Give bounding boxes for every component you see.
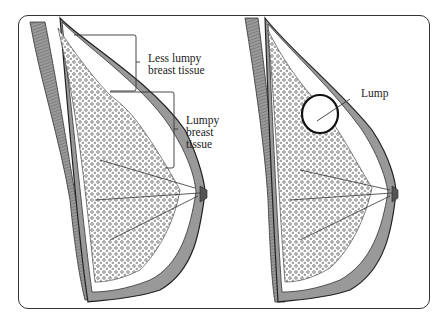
label-less-lumpy-line2: breast tissue	[148, 64, 205, 76]
right-breast-diagram	[245, 18, 398, 302]
label-less-lumpy: Less lumpy breast tissue	[148, 52, 205, 76]
breast-anatomy-illustration	[0, 0, 448, 325]
label-lumpy-line3: tissue	[186, 138, 219, 150]
label-lumpy: Lumpy breast tissue	[186, 114, 219, 150]
label-lumpy-line2: breast	[186, 126, 219, 138]
label-lumpy-line1: Lumpy	[186, 114, 219, 126]
label-lump: Lump	[361, 87, 388, 99]
label-less-lumpy-line1: Less lumpy	[148, 52, 205, 64]
lump-shape	[302, 95, 338, 133]
